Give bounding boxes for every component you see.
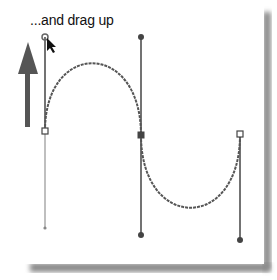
handle-point-icon[interactable] [138,34,144,40]
bezier-illustration: ...and drag up [0,0,277,280]
panel [0,0,264,264]
illustration-svg [0,0,277,280]
middle-anchor-icon[interactable] [138,132,145,139]
handle-point-icon[interactable] [237,237,243,243]
handle-point-icon[interactable] [138,232,144,238]
start-anchor-icon[interactable] [42,128,48,134]
caption-text: ...and drag up [30,12,114,28]
end-anchor-icon[interactable] [237,131,243,137]
handle-point-icon[interactable] [43,226,46,229]
